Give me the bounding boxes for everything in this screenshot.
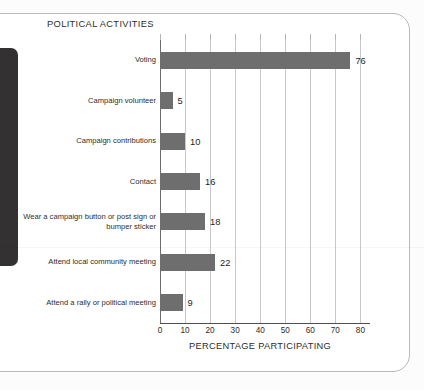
bar[interactable] xyxy=(160,133,185,150)
bar-value-label: 5 xyxy=(178,96,183,106)
category-label: Voting xyxy=(8,55,156,65)
category-label: Campaign contributions xyxy=(8,136,156,146)
bar[interactable] xyxy=(160,52,350,69)
category-label: Attend local community meeting xyxy=(8,257,156,267)
gridline-50 xyxy=(285,40,286,323)
bar-value-label: 10 xyxy=(190,137,200,147)
x-tick-label: 20 xyxy=(206,326,215,335)
plot-area xyxy=(160,40,360,323)
chart-title: POLITICAL ACTIVITIES xyxy=(47,19,154,29)
category-label: Wear a campaign button or post sign or b… xyxy=(8,212,156,231)
bar-value-label: 9 xyxy=(188,298,193,308)
category-label-group: VotingCampaign volunteerCampaign contrib… xyxy=(4,40,156,323)
gridline-30 xyxy=(235,40,236,323)
tick-mark-40 xyxy=(260,34,261,40)
tick-mark-20 xyxy=(210,34,211,40)
bar[interactable] xyxy=(160,92,173,109)
bar[interactable] xyxy=(160,254,215,271)
tick-mark-0 xyxy=(160,34,161,40)
x-tick-label: 40 xyxy=(256,326,265,335)
bar-value-label: 22 xyxy=(220,258,230,268)
x-tick-label: 10 xyxy=(180,326,189,335)
gridline-80 xyxy=(360,40,361,323)
tick-mark-80 xyxy=(360,34,361,40)
tick-mark-10 xyxy=(185,34,186,40)
x-tick-label: 60 xyxy=(306,326,315,335)
gridline-70 xyxy=(335,40,336,323)
x-tick-label: 70 xyxy=(331,326,340,335)
tick-mark-50 xyxy=(285,34,286,40)
x-tick-label: 80 xyxy=(356,326,365,335)
category-label: Campaign volunteer xyxy=(8,96,156,106)
gridline-60 xyxy=(310,40,311,323)
bar-value-label: 16 xyxy=(205,177,215,187)
category-label: Contact xyxy=(8,177,156,187)
x-tick-label: 30 xyxy=(231,326,240,335)
tick-mark-70 xyxy=(335,34,336,40)
x-axis-title: PERCENTAGE PARTICIPATING xyxy=(160,341,360,351)
x-axis-line xyxy=(160,323,370,324)
bar[interactable] xyxy=(160,294,183,311)
bar-value-label: 18 xyxy=(210,217,220,227)
x-tick-label: 0 xyxy=(158,326,163,335)
tick-mark-30 xyxy=(235,34,236,40)
x-tick-label: 50 xyxy=(281,326,290,335)
scan-seam xyxy=(0,247,424,248)
gridline-40 xyxy=(260,40,261,323)
bar[interactable] xyxy=(160,213,205,230)
bar[interactable] xyxy=(160,173,200,190)
tick-mark-60 xyxy=(310,34,311,40)
category-label: Attend a rally or political meeting xyxy=(8,298,156,308)
bar-value-label: 76 xyxy=(355,56,365,66)
